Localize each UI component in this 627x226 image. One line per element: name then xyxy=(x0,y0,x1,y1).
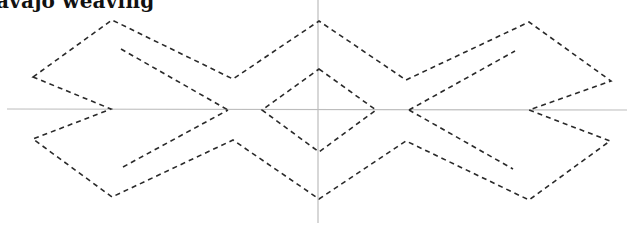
inner-line-lower-left xyxy=(123,110,228,167)
inner-line-upper-right xyxy=(409,51,515,110)
center-diamond xyxy=(262,69,376,152)
inner-line-upper-left xyxy=(121,49,228,110)
navajo-weaving-pattern xyxy=(0,0,627,226)
inner-line-lower-right xyxy=(409,110,513,169)
horizontal-axis xyxy=(7,109,627,110)
